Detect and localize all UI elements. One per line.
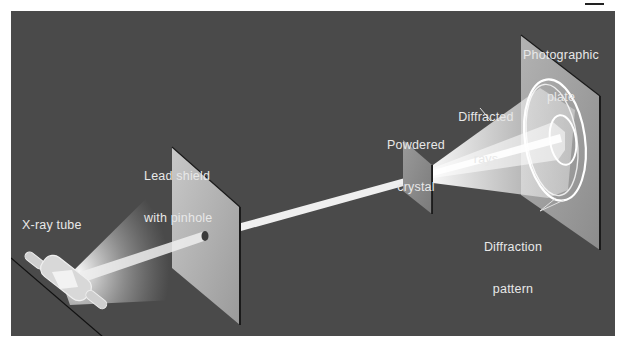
label-powdered-crystal-line2: crystal xyxy=(381,180,451,194)
label-diffraction-pattern-line1: Diffraction xyxy=(473,240,553,254)
label-photographic-plate-line2: plate xyxy=(511,90,611,104)
label-diffraction-pattern: Diffraction pattern xyxy=(473,212,553,324)
label-powdered-crystal-line1: Powdered xyxy=(381,138,451,152)
diagram-panel: X-ray tube Lead shield with pinhole Powd… xyxy=(11,11,615,336)
label-lead-shield: Lead shield with pinhole xyxy=(144,141,212,253)
label-diffraction-pattern-line2: pattern xyxy=(473,282,553,296)
label-powdered-crystal: Powdered crystal xyxy=(381,110,451,222)
page-corner-mark xyxy=(585,3,604,5)
label-photographic-plate-line1: Photographic xyxy=(511,48,611,62)
label-photographic-plate: Photographic plate xyxy=(511,20,611,132)
label-lead-shield-line2: with pinhole xyxy=(144,211,212,225)
label-lead-shield-line1: Lead shield xyxy=(144,169,212,183)
label-diffracted-rays-line2: rays xyxy=(451,152,521,166)
label-xray-tube: X-ray tube xyxy=(22,218,82,232)
